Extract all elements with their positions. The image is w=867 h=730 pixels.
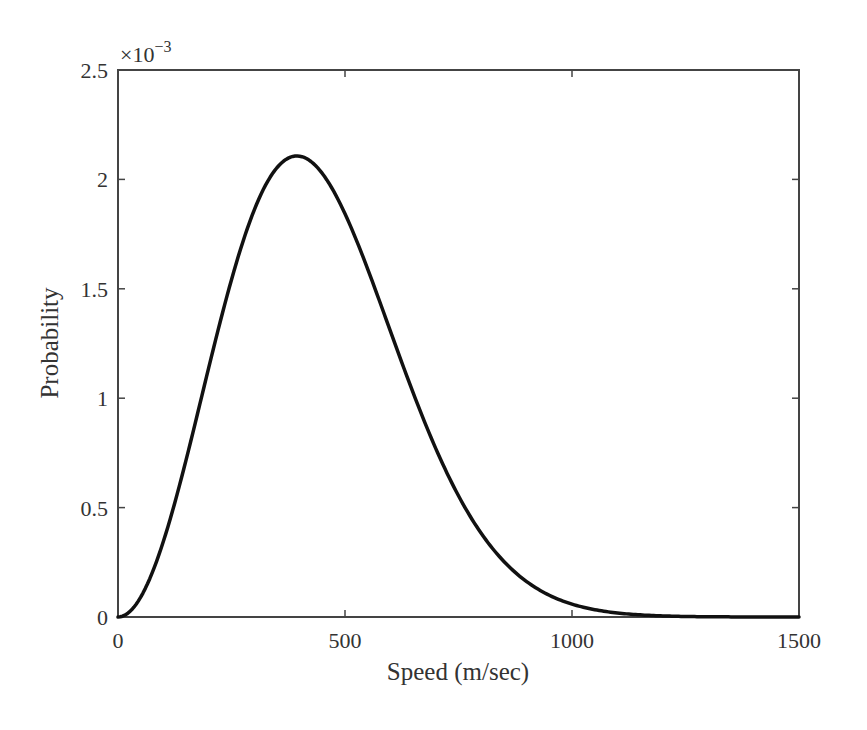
probability-curve: [118, 156, 799, 617]
plot-frame: [118, 70, 799, 617]
plot-area: [118, 70, 799, 617]
svg-text:×10−3: ×10−3: [120, 38, 171, 67]
x-axis-tick-labels: 050010001500: [113, 628, 822, 653]
x-axis-label: Speed (m/sec): [387, 658, 529, 686]
y-tick-label: 0: [97, 605, 108, 630]
x-tick-label: 500: [329, 628, 362, 653]
y-axis-label: Probability: [36, 287, 63, 399]
y-tick-label: 1: [97, 386, 108, 411]
y-tick-label: 2: [97, 167, 108, 192]
y-exponent-power: −3: [154, 38, 171, 55]
y-axis-tick-labels: 00.511.522.5: [81, 58, 109, 630]
x-axis-ticks: [118, 70, 799, 617]
y-tick-label: 2.5: [81, 58, 109, 83]
x-tick-label: 1500: [777, 628, 821, 653]
y-tick-label: 1.5: [81, 277, 109, 302]
y-exponent-base: ×10: [120, 42, 154, 67]
y-axis-exponent: ×10−3: [120, 38, 171, 67]
y-axis-ticks: [118, 70, 799, 617]
x-tick-label: 1000: [550, 628, 594, 653]
chart: 050010001500 00.511.522.5 Speed (m/sec) …: [0, 0, 867, 730]
x-tick-label: 0: [113, 628, 124, 653]
y-tick-label: 0.5: [81, 496, 109, 521]
